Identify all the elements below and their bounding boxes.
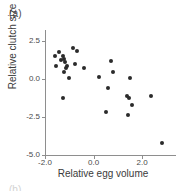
data-point — [54, 64, 58, 68]
data-point — [126, 113, 130, 117]
y-tick-label: 2.5 — [18, 36, 40, 45]
data-point — [128, 76, 132, 80]
data-point — [106, 86, 110, 90]
x-axis-title: Relative egg volume — [30, 168, 176, 179]
data-point — [130, 103, 134, 107]
y-tick-label: -2.5 — [18, 112, 40, 121]
data-point — [53, 54, 57, 58]
x-tick-label: 0.0 — [81, 158, 107, 167]
data-point — [160, 141, 164, 145]
data-point — [75, 49, 79, 53]
next-panel-label: (b) — [9, 184, 21, 191]
y-tick-label: 0.0 — [18, 74, 40, 83]
data-point — [109, 59, 113, 63]
plot-area — [45, 30, 176, 155]
data-point — [111, 70, 115, 74]
data-point — [104, 110, 108, 114]
x-tick-label: -2.0 — [32, 158, 58, 167]
data-point — [61, 96, 65, 100]
data-point — [67, 76, 71, 80]
y-axis-title: Relative clutch size — [7, 0, 18, 106]
data-point — [65, 64, 69, 68]
data-point — [97, 75, 101, 79]
data-point — [82, 66, 86, 70]
scatter-plot-figure: (a) Relative clutch size Relative egg vo… — [0, 0, 181, 191]
data-point — [73, 62, 77, 66]
data-point — [149, 94, 153, 98]
x-axis-line — [45, 155, 176, 156]
data-point — [62, 70, 66, 74]
x-tick-label: 2.0 — [129, 158, 155, 167]
data-point — [127, 96, 131, 100]
